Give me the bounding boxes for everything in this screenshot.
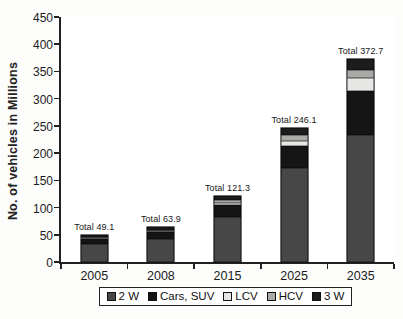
legend-label: LCV: [235, 290, 257, 302]
y-tick-mark: [54, 152, 59, 154]
legend-item-2-w: 2 W: [107, 290, 139, 302]
legend-item-hcv: HCV: [267, 290, 303, 302]
bar-total-label: Total 63.9: [121, 214, 201, 224]
legend-label: 3 W: [324, 290, 344, 302]
x-axis-label-2025: 2025: [261, 269, 327, 283]
bar-segment-3-w: [281, 128, 308, 135]
bar-segment-2-w: [81, 244, 108, 263]
y-tick-mark: [54, 71, 59, 73]
y-axis-title: No. of vehicles in Millions: [6, 31, 22, 251]
bar-segment-2-w: [281, 168, 308, 262]
bar-segment-2-w: [214, 217, 241, 262]
legend-item-3-w: 3 W: [312, 290, 344, 302]
legend-item-cars-suv: Cars, SUV: [148, 290, 214, 302]
y-tick-mark: [54, 125, 59, 127]
stacked-bar-2015: [214, 196, 241, 262]
stacked-bar-2025: [281, 128, 308, 262]
bar-total-label: Total 246.1: [254, 115, 334, 125]
x-axis-label-2008: 2008: [128, 269, 194, 283]
y-tick-label: 250: [19, 120, 53, 134]
legend-box: 2 WCars, SUVLCVHCV3 W: [99, 287, 353, 306]
y-tick-mark: [54, 98, 59, 100]
x-axis-label-2005: 2005: [61, 269, 127, 283]
y-tick-mark: [54, 180, 59, 182]
y-tick-label: 350: [19, 65, 53, 79]
y-tick-label: 100: [19, 202, 53, 216]
y-tick-mark: [54, 261, 59, 263]
x-axis-label-2015: 2015: [195, 269, 261, 283]
legend-swatch: [107, 292, 116, 301]
y-tick-mark: [54, 234, 59, 236]
stacked-bar-2005: [81, 235, 108, 262]
vehicles-stacked-bar-chart: No. of vehicles in Millions 050100150200…: [0, 0, 403, 319]
bar-segment-3-w: [347, 59, 374, 70]
y-tick-label: 50: [19, 229, 53, 243]
bar-segment-cars-suv: [347, 91, 374, 135]
legend-label: 2 W: [119, 290, 139, 302]
y-tick-mark: [54, 43, 59, 45]
bar-segment-cars-suv: [147, 232, 174, 239]
plot-area: 050100150200250300350400450Total 49.1200…: [59, 17, 394, 264]
bar-total-label: Total 121.3: [188, 183, 268, 193]
stacked-bar-2035: [347, 59, 374, 262]
bar-total-label: Total 372.7: [321, 46, 401, 56]
bar-segment-cars-suv: [281, 146, 308, 168]
x-axis-label-2035: 2035: [328, 269, 394, 283]
legend: 2 WCars, SUVLCVHCV3 W: [59, 287, 392, 306]
legend-swatch: [312, 292, 321, 301]
bar-segment-2-w: [347, 135, 374, 262]
bar-segment-hcv: [347, 70, 374, 78]
y-tick-mark: [54, 207, 59, 209]
stacked-bar-2008: [147, 227, 174, 262]
legend-item-lcv: LCV: [223, 290, 257, 302]
legend-label: Cars, SUV: [160, 290, 214, 302]
y-tick-label: 450: [19, 11, 53, 25]
y-tick-label: 150: [19, 174, 53, 188]
legend-swatch: [267, 292, 276, 301]
legend-swatch: [148, 292, 157, 301]
y-tick-label: 0: [19, 256, 53, 270]
legend-swatch: [223, 292, 232, 301]
bar-segment-cars-suv: [214, 205, 241, 217]
y-tick-mark: [54, 16, 59, 18]
bar-segment-2-w: [147, 239, 174, 262]
bar-segment-lcv: [347, 78, 374, 91]
y-tick-label: 200: [19, 147, 53, 161]
y-tick-label: 300: [19, 93, 53, 107]
legend-label: HCV: [279, 290, 303, 302]
y-tick-label: 400: [19, 38, 53, 52]
